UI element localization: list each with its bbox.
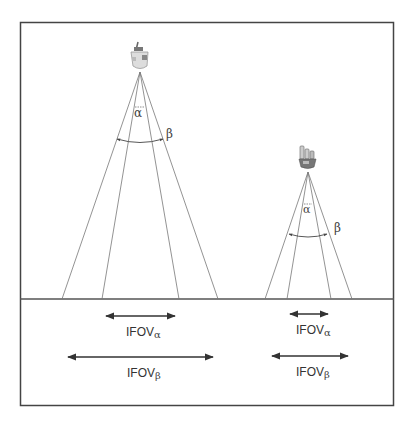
ifov-beta-label: IFOVβ bbox=[127, 366, 161, 381]
left-sensor: α β bbox=[62, 42, 218, 299]
diagram-frame bbox=[21, 23, 394, 406]
ifov-diagram: α β α β IFOVα IFOVβ IFOVα bbox=[0, 0, 409, 424]
left-ifov-annotations: IFOVα IFOVβ bbox=[68, 316, 213, 381]
satellite-icon bbox=[131, 42, 148, 69]
beta-angle-arc bbox=[289, 234, 327, 237]
satellite-icon bbox=[299, 146, 316, 169]
right-sensor: α β bbox=[265, 146, 352, 299]
alpha-angle-label: α bbox=[303, 203, 311, 216]
right-ifov-annotations: IFOVα IFOVβ bbox=[272, 314, 348, 380]
ifov-alpha-label: IFOVα bbox=[126, 325, 161, 340]
ifov-alpha-label: IFOVα bbox=[296, 323, 331, 338]
beta-angle-arc bbox=[117, 139, 163, 143]
alpha-angle-label: α bbox=[134, 106, 142, 120]
beta-angle-label: β bbox=[166, 127, 173, 141]
beta-angle-label: β bbox=[334, 221, 341, 235]
ifov-beta-label: IFOVβ bbox=[296, 365, 330, 380]
right-rays bbox=[265, 172, 352, 299]
